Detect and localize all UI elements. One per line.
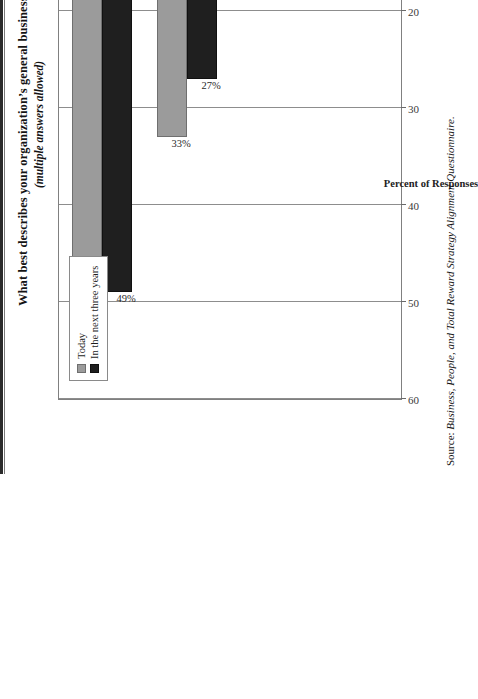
bar — [102, 0, 132, 292]
axis-tick-label: 20 — [408, 6, 419, 18]
axis-tick-label: 60 — [408, 394, 419, 406]
bar — [157, 0, 187, 137]
legend-label: In the next three years — [88, 266, 101, 359]
axis-tick-mark — [401, 10, 406, 11]
gridline — [59, 398, 401, 399]
source-note: Source: Business, People, and Total Rewa… — [444, 116, 456, 466]
chart-figure: What best describes your organization’s … — [0, 0, 474, 474]
source-prefix: Source: — [444, 430, 456, 466]
chart-title: What best describes your organization’s … — [16, 0, 31, 474]
chart-legend: TodayIn the next three years — [69, 256, 108, 381]
chart-subtitle: (multiple answers allowed) — [32, 0, 47, 474]
bar-value-label: 49% — [116, 293, 135, 304]
legend-swatch-icon — [77, 364, 86, 373]
axis-tick-mark — [401, 398, 406, 399]
page-top-rule — [0, 0, 3, 474]
legend-label: Today — [75, 333, 88, 359]
legend-item: In the next three years — [88, 266, 101, 373]
axis-tick-label: 40 — [408, 200, 419, 212]
bar-value-label: 27% — [202, 79, 221, 90]
bar — [187, 0, 217, 79]
bar-value-label: 33% — [172, 138, 191, 149]
source-text: Business, People, and Total Reward Strat… — [444, 116, 456, 429]
axis-tick-label: 50 — [408, 297, 419, 309]
value-axis-title: Percent of Responses — [384, 178, 478, 189]
axis-tick-mark — [401, 301, 406, 302]
plot-area: 50%49%33%27%16%15%5%5% — [59, 0, 401, 399]
title-block: What best describes your organization’s … — [16, 0, 47, 474]
legend-swatch-icon — [90, 364, 99, 373]
axis-tick-mark — [401, 204, 406, 205]
axis-tick-mark — [401, 107, 406, 108]
figure-canvas: What best describes your organization’s … — [0, 0, 474, 474]
page-top-rule-thin — [4, 0, 5, 474]
legend-item: Today — [75, 266, 88, 373]
axis-tick-label: 30 — [408, 103, 419, 115]
gridline — [59, 301, 401, 302]
